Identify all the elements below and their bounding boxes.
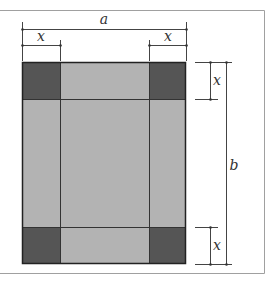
dimension-ticks-right bbox=[209, 61, 228, 266]
label-x-top-right: x bbox=[164, 28, 172, 44]
corner-bottom-left bbox=[22, 227, 60, 264]
dimension-lines-top bbox=[22, 22, 187, 61]
dimension-lines-right bbox=[195, 62, 232, 265]
main-rectangle bbox=[22, 62, 186, 264]
label-x-right-bottom: x bbox=[213, 237, 221, 253]
label-x-right-top: x bbox=[213, 72, 221, 88]
corner-bottom-right bbox=[149, 227, 186, 264]
label-x-top-left: x bbox=[37, 28, 45, 44]
label-b: b bbox=[230, 157, 239, 173]
corner-top-left bbox=[22, 62, 60, 99]
label-a: a bbox=[100, 11, 108, 27]
diagram-canvas: a x x x b x bbox=[0, 0, 270, 287]
corner-top-right bbox=[149, 62, 186, 99]
dimension-ticks-top bbox=[21, 28, 188, 47]
